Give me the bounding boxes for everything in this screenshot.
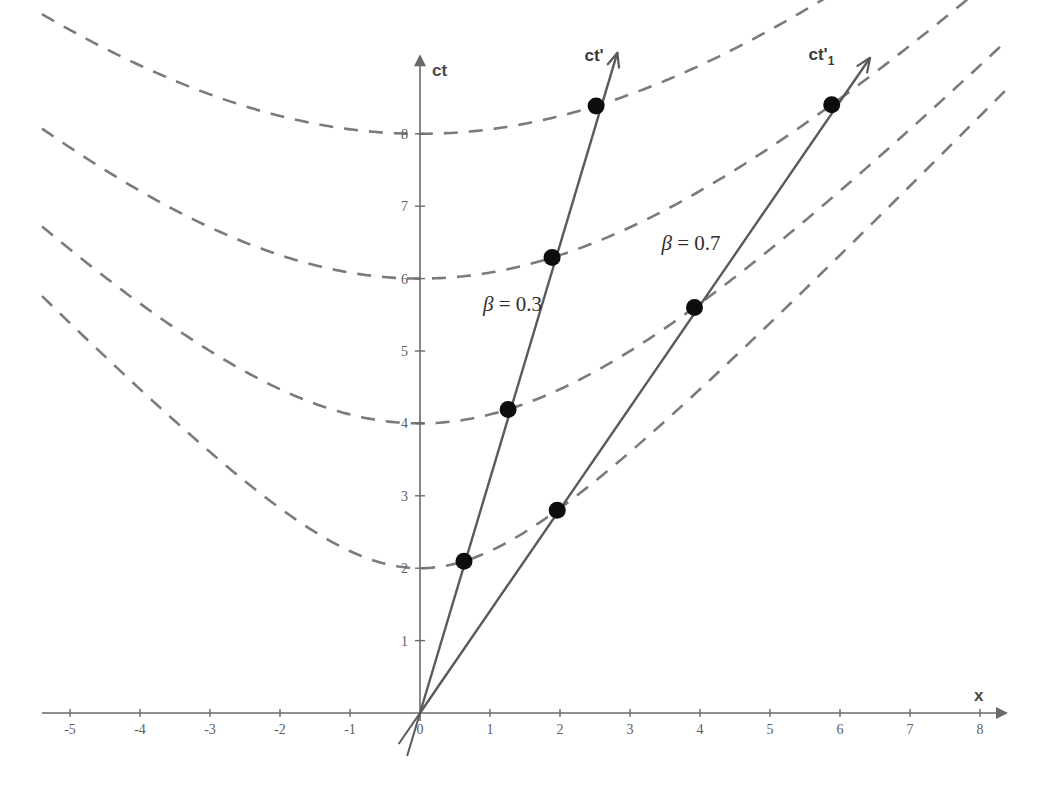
x-axis-label: x	[974, 686, 984, 705]
minkowski-diagram-svg: -5-4-3-2-101234567812345678xct β = 0.3β …	[0, 0, 1045, 787]
invariant-hyperbola-a6	[42, 0, 1008, 279]
ct-axis-label: ct	[432, 61, 447, 80]
x-tick-label-7: 7	[907, 722, 914, 737]
y-tick-label-6: 6	[401, 272, 408, 287]
x-tick-label-4: 4	[697, 722, 704, 737]
annotation-beta-03: β = 0.3	[482, 292, 542, 316]
spacetime-diagram-canvas: -5-4-3-2-101234567812345678xct β = 0.3β …	[0, 0, 1045, 787]
y-tick-label-1: 1	[401, 634, 408, 649]
y-tick-label-3: 3	[401, 489, 408, 504]
x-tick-label--3: -3	[204, 722, 216, 737]
event-dot-ct'_1-a4	[686, 299, 703, 316]
y-tick-label-2: 2	[401, 561, 408, 576]
event-dot-ct'-a2	[456, 553, 473, 570]
x-tick-label--4: -4	[134, 722, 146, 737]
invariant-hyperbola-a2	[42, 88, 1008, 568]
y-tick-label-8: 8	[401, 127, 408, 142]
x-tick-label-5: 5	[767, 722, 774, 737]
event-dot-ct'-a4	[500, 401, 517, 418]
event-dot-ct'_1-a6	[823, 96, 840, 113]
x-tick-label-8: 8	[977, 722, 984, 737]
x-tick-label--1: -1	[344, 722, 356, 737]
x-tick-label-2: 2	[557, 722, 564, 737]
y-tick-label-7: 7	[401, 199, 408, 214]
hyperbola-layer	[42, 0, 1008, 568]
annotation-beta-07: β = 0.7	[661, 231, 721, 255]
event-dot-ct'_1-a2	[549, 502, 566, 519]
x-tick-label-1: 1	[487, 722, 494, 737]
event-dot-layer	[456, 96, 841, 570]
x-tick-label--2: -2	[274, 722, 286, 737]
event-dot-ct'-a8	[588, 97, 605, 114]
axis-layer: -5-4-3-2-101234567812345678xct	[42, 54, 1008, 737]
y-tick-label-5: 5	[401, 344, 408, 359]
x-tick-label-6: 6	[837, 722, 844, 737]
worldline-ct'	[420, 53, 617, 713]
y-axis-arrowhead	[414, 54, 426, 66]
annotation-layer: β = 0.3β = 0.7ct'ct'1	[482, 45, 835, 316]
worldline-ct'_1	[420, 58, 870, 713]
annotation-ct-prime: ct'	[585, 46, 604, 65]
event-dot-ct'-a6	[544, 249, 561, 266]
annotation-ct-prime-1: ct'1	[809, 45, 835, 68]
worldline-layer	[399, 53, 870, 756]
x-axis-arrowhead	[996, 707, 1008, 719]
x-tick-label-3: 3	[627, 722, 634, 737]
x-tick-label--5: -5	[64, 722, 76, 737]
y-tick-label-4: 4	[401, 416, 408, 431]
